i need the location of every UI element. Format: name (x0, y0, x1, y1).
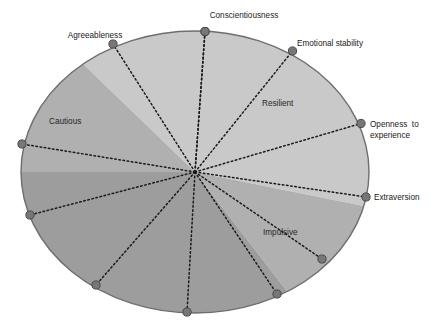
node-unlabeled-lower-left-2 (26, 211, 34, 219)
wheel-svg: ConscientiousnessEmotional stabilityOpen… (0, 0, 445, 330)
node-emotional-stability (288, 47, 296, 55)
label-cautious: Cautious (49, 117, 81, 126)
node-extraversion (362, 193, 370, 201)
label-emotional-stability: Emotional stability (297, 39, 364, 48)
node-openness-to-experience (357, 119, 365, 127)
personality-wheel-figure: ConscientiousnessEmotional stabilityOpen… (0, 0, 445, 330)
label-resilient: Resilient (262, 99, 294, 108)
node-unlabeled-lower-right-2 (273, 290, 281, 298)
label-openness-to-experience-line1: Openness to (370, 120, 419, 129)
node-agreeableness (109, 40, 117, 48)
node-unlabeled-left (18, 140, 26, 148)
node-top-hidden (201, 27, 209, 35)
node-unlabeled-lower-right-1 (318, 255, 326, 263)
label-agreeableness: Agreeableness (68, 31, 123, 40)
label-extraversion: Extraversion (374, 193, 420, 202)
label-openness-to-experience-line2: experience (370, 131, 411, 140)
label-impulsive: Impulsive (263, 228, 298, 237)
label-conscientiousness: Conscientiousness (210, 11, 279, 20)
node-unlabeled-lower-left-1 (92, 281, 100, 289)
node-unlabeled-bottom (183, 308, 191, 316)
